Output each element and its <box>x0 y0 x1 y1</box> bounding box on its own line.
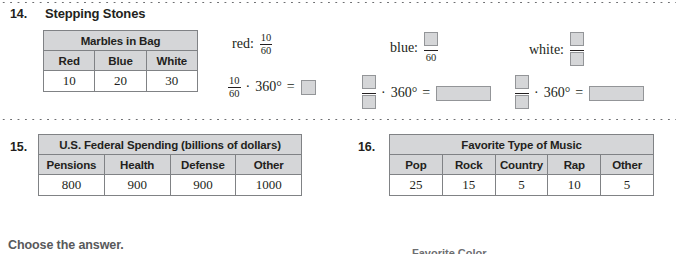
ratio-expression-red: red: 10 60 <box>232 32 272 57</box>
column-header-health: Health <box>104 155 170 175</box>
equation-white: · 360° = <box>515 75 644 112</box>
answer-blank-box[interactable] <box>424 32 438 46</box>
equals-sign: = <box>422 85 430 101</box>
column-header-blue: Blue <box>95 51 146 71</box>
table-caption-row: U.S. Federal Spending (billions of dolla… <box>39 135 302 155</box>
fraction-bar <box>362 93 376 94</box>
column-header-other: Other <box>236 155 302 175</box>
fraction-numerator-blue-blank[interactable] <box>424 32 438 49</box>
problem-number-15: 15. <box>10 140 27 154</box>
multiplication-operator: · <box>534 85 539 101</box>
table-row: 10 20 30 <box>44 71 198 92</box>
problem-title-14: Stepping Stones <box>45 6 145 21</box>
cell-rap-value: 10 <box>548 175 601 196</box>
fraction-red: 10 60 <box>260 32 273 57</box>
equals-sign: = <box>287 79 295 95</box>
cell-defense-value: 900 <box>170 175 236 196</box>
fraction-blue: 60 <box>424 32 438 64</box>
cell-pop-value: 25 <box>390 175 443 196</box>
cell-rock-value: 15 <box>442 175 495 196</box>
table-header-row: Pop Rock Country Rap Other <box>390 155 654 175</box>
fraction-numerator: 10 <box>228 75 241 88</box>
multiplication-operator: · <box>381 85 386 101</box>
answer-blank-box[interactable] <box>570 32 584 46</box>
cell-health-value: 900 <box>104 175 170 196</box>
table-header-row: Red Blue White <box>44 51 198 71</box>
cell-red-count: 10 <box>44 71 95 92</box>
answer-blank-box[interactable] <box>515 75 529 89</box>
fraction-red-equation: 10 60 <box>228 75 241 100</box>
fraction-denominator-white-blank[interactable] <box>570 52 584 69</box>
clipped-table-caption-favorite-color: Favorite Color <box>412 247 532 254</box>
answer-blank-box[interactable] <box>362 75 376 89</box>
column-header-country: Country <box>495 155 548 175</box>
fraction-bar <box>570 50 584 51</box>
fraction-denominator-red: 60 <box>260 45 273 57</box>
ratio-label-red: red: <box>232 36 254 52</box>
favorite-music-table: Favorite Type of Music Pop Rock Country … <box>389 134 654 196</box>
answer-blank-box[interactable] <box>589 86 644 101</box>
fraction-denominator-blue: 60 <box>425 52 438 64</box>
cell-other-value: 1000 <box>236 175 302 196</box>
multiplier-value: 360° <box>544 85 571 101</box>
answer-blank-box[interactable] <box>301 80 316 95</box>
column-header-rap: Rap <box>548 155 601 175</box>
column-header-pensions: Pensions <box>39 155 105 175</box>
cell-pensions-value: 800 <box>39 175 105 196</box>
ratio-expression-white: white: <box>529 32 584 69</box>
ratio-expression-blue: blue: 60 <box>390 32 438 64</box>
multiplication-operator: · <box>246 79 251 95</box>
fraction-numerator-blank[interactable] <box>362 75 376 92</box>
cell-white-count: 30 <box>146 71 197 92</box>
instruction-choose-the-answer: Choose the answer. <box>8 238 124 252</box>
ratio-label-white: white: <box>529 42 564 58</box>
multiplier-value: 360° <box>391 85 418 101</box>
ratio-label-blue: blue: <box>390 40 418 56</box>
table-header-row: Pensions Health Defense Other <box>39 155 302 175</box>
answer-blank-box[interactable] <box>515 95 529 109</box>
problem-number-16: 16. <box>358 140 375 154</box>
problem-number-14: 14. <box>10 7 27 21</box>
column-header-red: Red <box>44 51 95 71</box>
equation-red: 10 60 · 360° = <box>228 75 316 100</box>
table-row: 800 900 900 1000 <box>39 175 302 196</box>
answer-blank-box[interactable] <box>362 95 376 109</box>
column-header-white: White <box>146 51 197 71</box>
column-header-pop: Pop <box>390 155 443 175</box>
fraction-numerator-blank[interactable] <box>515 75 529 92</box>
column-header-rock: Rock <box>442 155 495 175</box>
fraction-numerator-white-blank[interactable] <box>570 32 584 49</box>
fraction-numerator-red: 10 <box>260 32 273 45</box>
table-caption-row: Marbles in Bag <box>44 31 198 51</box>
fraction-bar <box>424 50 438 51</box>
section-separator-middle <box>0 118 676 121</box>
fraction-white-equation <box>515 75 529 112</box>
fraction-blue-equation <box>362 75 376 112</box>
table-caption-row: Favorite Type of Music <box>390 135 654 155</box>
equals-sign: = <box>575 85 583 101</box>
table-caption: U.S. Federal Spending (billions of dolla… <box>39 135 302 155</box>
marbles-in-bag-table: Marbles in Bag Red Blue White 10 20 30 <box>43 30 198 92</box>
fraction-denominator-blank[interactable] <box>362 95 376 112</box>
fraction-denominator-blank[interactable] <box>515 95 529 112</box>
multiplier-value: 360° <box>255 79 282 95</box>
equation-blue: · 360° = <box>362 75 491 112</box>
answer-blank-box[interactable] <box>436 86 491 101</box>
fraction-white <box>570 32 584 69</box>
cell-country-value: 5 <box>495 175 548 196</box>
fraction-bar <box>515 93 529 94</box>
table-caption: Marbles in Bag <box>44 31 198 51</box>
section-separator-top <box>0 1 676 4</box>
table-caption: Favorite Type of Music <box>390 135 654 155</box>
answer-blank-box[interactable] <box>570 52 584 66</box>
federal-spending-table: U.S. Federal Spending (billions of dolla… <box>38 134 302 196</box>
column-header-other: Other <box>601 155 654 175</box>
fraction-denominator: 60 <box>228 88 241 100</box>
table-row: 25 15 5 10 5 <box>390 175 654 196</box>
cell-blue-count: 20 <box>95 71 146 92</box>
cell-other-value: 5 <box>601 175 654 196</box>
column-header-defense: Defense <box>170 155 236 175</box>
